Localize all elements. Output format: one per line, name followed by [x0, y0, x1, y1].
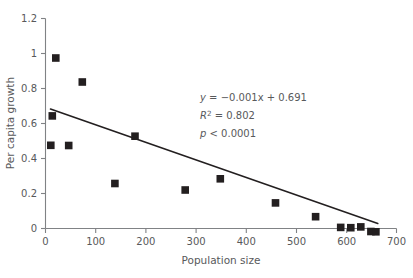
y-tick-label-2: 0.4 [21, 153, 37, 164]
x-tick-label-4: 400 [237, 236, 256, 247]
p-symbol: p [199, 128, 206, 139]
data-point [312, 213, 320, 221]
x-axis-tick-labels: 0 100 200 300 400 500 600 700 [42, 236, 406, 247]
y-tick-label-6: 1.2 [21, 13, 37, 24]
y-tick-label-0: 0 [31, 223, 37, 234]
data-point [337, 224, 345, 232]
x-tick-label-6: 600 [337, 236, 356, 247]
data-point [131, 132, 139, 140]
y-axis-tick-labels: 1.2 1 0.8 0.6 0.4 0.2 0 [21, 13, 37, 234]
annotation-p-value: p < 0.0001 [199, 128, 256, 139]
data-point-markers [47, 54, 380, 235]
annotation-r-squared: R2 = 0.802 [200, 109, 255, 122]
chart-canvas: 1.2 1 0.8 0.6 0.4 0.2 0 0 100 200 300 40… [0, 0, 413, 278]
data-point [111, 180, 119, 188]
data-point [79, 78, 87, 86]
regression-annotation: y = −0.001x + 0.691 R2 = 0.802 p < 0.000… [199, 92, 307, 139]
r-symbol: R [200, 110, 207, 121]
y-tick-label-5: 1 [31, 48, 37, 59]
y-axis-title: Per capita growth [4, 77, 16, 169]
equation-body: = −0.001x + 0.691 [206, 92, 307, 103]
x-tick-label-5: 500 [287, 236, 306, 247]
p-value: < 0.0001 [206, 128, 256, 139]
r-value: = 0.802 [212, 110, 255, 121]
data-point [181, 186, 189, 194]
data-point [357, 223, 365, 231]
data-point [217, 175, 225, 183]
x-tick-label-3: 300 [187, 236, 206, 247]
data-point [347, 224, 355, 232]
x-axis-title: Population size [182, 254, 261, 266]
x-tick-label-7: 700 [387, 236, 406, 247]
y-tick-label-1: 0.2 [21, 188, 37, 199]
data-point [52, 54, 60, 62]
data-point [372, 228, 380, 236]
data-point [65, 142, 73, 150]
data-point [49, 112, 57, 120]
y-tick-label-4: 0.8 [21, 83, 37, 94]
regression-trendline [51, 109, 378, 223]
scatter-plot-figure: 1.2 1 0.8 0.6 0.4 0.2 0 0 100 200 300 40… [0, 0, 413, 278]
data-point [272, 199, 280, 207]
axes-spines [46, 19, 397, 229]
x-tick-label-0: 0 [42, 236, 48, 247]
annotation-equation: y = −0.001x + 0.691 [199, 92, 307, 103]
x-tick-label-1: 100 [86, 236, 105, 247]
y-tick-label-3: 0.6 [21, 118, 37, 129]
y-axis-ticks [41, 19, 46, 229]
x-tick-label-2: 200 [136, 236, 155, 247]
data-point [47, 142, 55, 150]
